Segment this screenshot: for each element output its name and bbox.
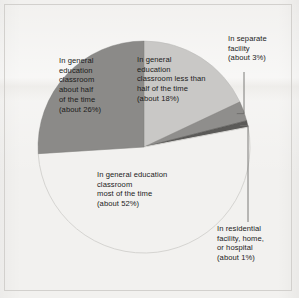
pie-slice-about-half-main-path[interactable] [38,41,144,154]
pie-chart-canvas [0,0,299,298]
pie-chart-figure: In general education classroom about hal… [0,0,299,298]
